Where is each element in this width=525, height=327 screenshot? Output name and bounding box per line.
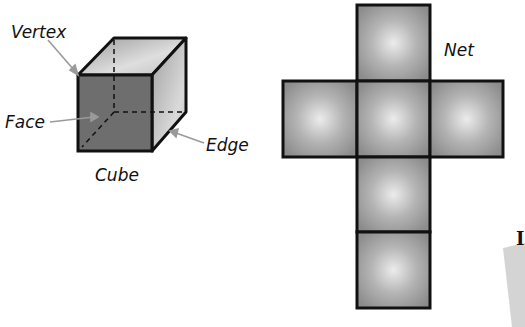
- net-square-top: [357, 5, 430, 81]
- net-square-bottom: [357, 232, 430, 308]
- edge-arrow: [176, 133, 204, 143]
- vertex-arrow: [48, 40, 74, 70]
- edge-label: Edge: [206, 135, 249, 155]
- net-square-left: [283, 81, 357, 157]
- cube-title: Cube: [95, 165, 139, 185]
- net-square-lower: [357, 157, 430, 232]
- face-label: Face: [5, 112, 45, 132]
- net-square-center: [357, 81, 430, 157]
- vertex-label: Vertex: [11, 22, 66, 42]
- net-square-right: [430, 81, 503, 157]
- net-title: Net: [444, 40, 474, 60]
- partial-card-text: I: [516, 228, 524, 249]
- partial-card: [503, 243, 525, 327]
- cube: [78, 38, 186, 151]
